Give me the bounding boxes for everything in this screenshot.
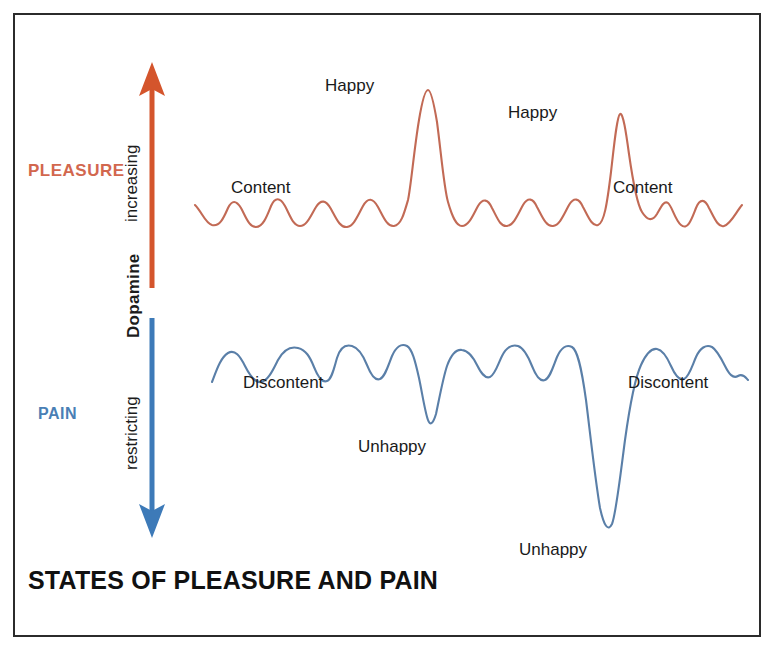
state-curves: [0, 0, 777, 655]
axis-label-pain: PAIN: [38, 405, 77, 423]
figure-root: PLEASURE PAIN increasing Dopamine restri…: [0, 0, 777, 655]
annotation-happy-1: Happy: [325, 76, 374, 96]
annotation-content-2: Content: [613, 178, 673, 198]
figure-title: STATES OF PLEASURE AND PAIN: [28, 566, 438, 595]
annotation-discontent-1: Discontent: [243, 373, 323, 393]
axis-label-restricting: restricting: [122, 396, 142, 470]
annotation-unhappy-2: Unhappy: [519, 540, 587, 560]
annotation-discontent-2: Discontent: [628, 373, 708, 393]
axis-label-dopamine: Dopamine: [124, 253, 144, 338]
axis-label-increasing: increasing: [122, 145, 142, 223]
annotation-content-1: Content: [231, 178, 291, 198]
axis-label-pleasure: PLEASURE: [28, 161, 125, 181]
pleasure-curve-path: [195, 90, 742, 227]
annotation-unhappy-1: Unhappy: [358, 437, 426, 457]
annotation-happy-2: Happy: [508, 103, 557, 123]
